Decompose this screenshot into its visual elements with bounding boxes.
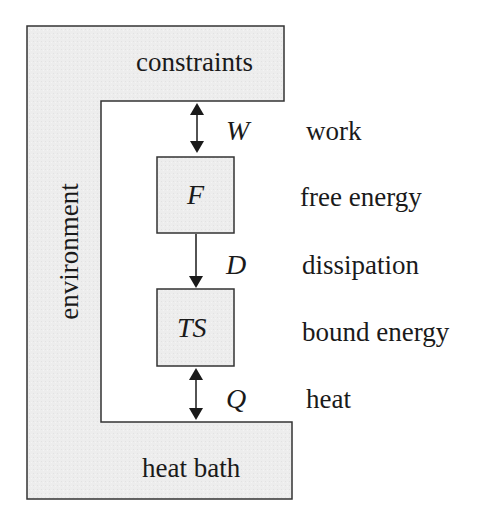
bound-energy-description: bound energy — [302, 319, 449, 346]
heat-bath-label: heat bath — [142, 455, 240, 482]
free-energy-symbol: F — [187, 181, 204, 209]
free-energy-description: free energy — [300, 184, 422, 211]
bound-energy-symbol: TS — [177, 314, 207, 342]
thermodynamics-diagram: constraints environment heat bath F TS W… — [0, 0, 500, 527]
heat-description: heat — [306, 386, 351, 413]
environment-label: environment — [56, 177, 83, 327]
heat-arrow-icon — [189, 368, 203, 420]
work-description: work — [306, 118, 362, 145]
constraints-label: constraints — [136, 49, 253, 76]
dissipation-arrow-icon — [189, 234, 203, 288]
heat-symbol: Q — [226, 385, 246, 413]
work-arrow-icon — [190, 103, 204, 153]
work-symbol: W — [226, 117, 249, 145]
dissipation-description: dissipation — [302, 252, 419, 279]
dissipation-symbol: D — [226, 251, 246, 279]
